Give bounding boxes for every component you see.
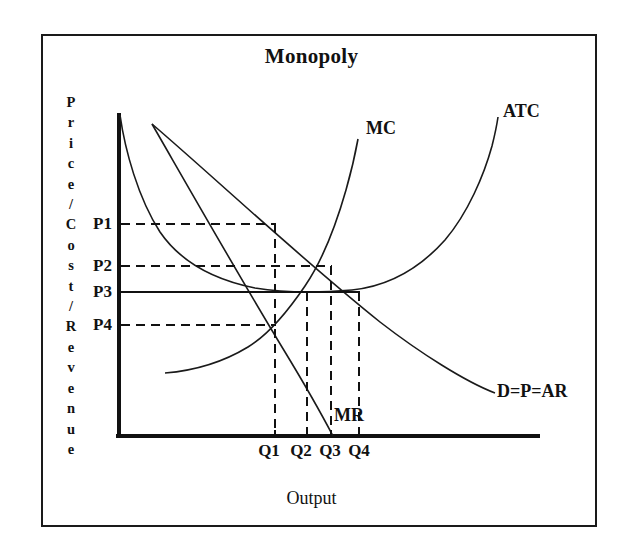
mc-curve	[165, 139, 358, 373]
chart-canvas	[0, 0, 623, 556]
monopoly-diagram-page: Monopoly P r i c e / C o s t / R e v e n…	[0, 0, 623, 556]
mr-curve	[152, 124, 333, 436]
demand-curve	[152, 124, 495, 393]
